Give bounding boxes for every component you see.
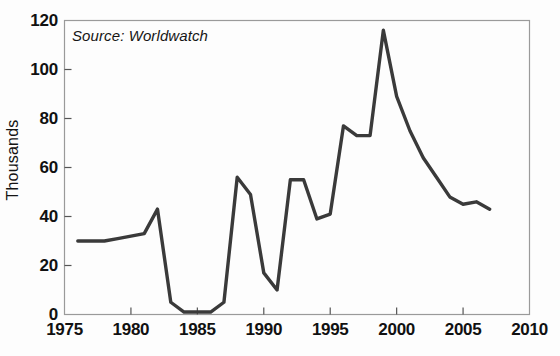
plot-frame [65,21,530,315]
y-tick-marks [65,70,72,266]
source-annotation: Source: Worldwatch [72,27,208,44]
chart-figure: Thousands 020406080100120 19751980198519… [0,0,560,356]
data-series-line [78,30,490,312]
plot-area [0,0,560,356]
